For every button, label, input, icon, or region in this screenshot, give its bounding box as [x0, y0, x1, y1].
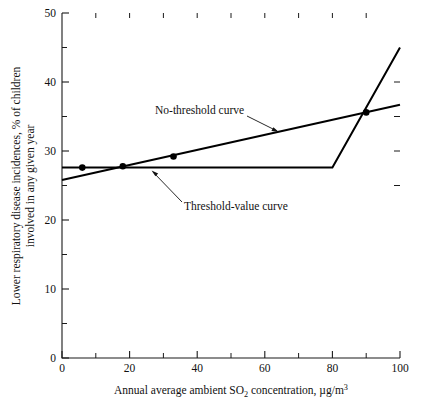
x-axis-title-part2: concentration, µg/m: [248, 384, 344, 397]
x-axis-title: Annual average ambient SO2 concentration…: [114, 383, 348, 399]
y-tick-label-50: 50: [45, 7, 57, 19]
x-tick-label-100: 100: [391, 362, 409, 374]
axis-spines: [62, 13, 400, 358]
svg-text:Annual average ambient SO2 con: Annual average ambient SO2 concentration…: [114, 383, 348, 399]
y-tick-label-20: 20: [45, 214, 57, 226]
data-points: [79, 109, 370, 171]
x-axis-ticks: [62, 351, 400, 358]
x-axis-tick-labels: 0 20 40 60 80 100: [59, 362, 409, 374]
x-tick-label-80: 80: [327, 362, 339, 374]
threshold-value-leader-arrowhead: [152, 171, 159, 177]
annotation-no-threshold: No-threshold curve: [155, 104, 279, 132]
y-tick-label-10: 10: [45, 283, 57, 295]
no-threshold-leader-line: [247, 116, 277, 131]
y-axis-title-line1: Lower respiratory disease incidences, % …: [10, 66, 23, 305]
x-tick-label-40: 40: [191, 362, 203, 374]
y-axis-title: Lower respiratory disease incidences, % …: [10, 66, 37, 305]
right-edge-ticks: [394, 82, 400, 186]
data-point: [170, 153, 177, 160]
threshold-value-annotation-label: Threshold-value curve: [184, 200, 288, 212]
chart-figure: 0 10 20 30 40 50: [0, 0, 421, 413]
y-axis-tick-labels: 0 10 20 30 40 50: [45, 7, 57, 364]
x-tick-label-20: 20: [124, 362, 136, 374]
chart-svg: 0 10 20 30 40 50: [0, 0, 421, 413]
x-axis-title-superscript: 3: [344, 383, 348, 392]
y-axis-ticks: [62, 13, 69, 358]
data-point: [363, 109, 370, 116]
no-threshold-annotation-label: No-threshold curve: [155, 104, 244, 116]
x-tick-label-60: 60: [259, 362, 271, 374]
axis-frame: [62, 13, 400, 358]
no-threshold-curve: [62, 105, 400, 180]
y-tick-label-0: 0: [50, 352, 56, 364]
threshold-value-leader-line: [153, 172, 182, 202]
data-point: [79, 164, 86, 171]
y-tick-label-30: 30: [45, 145, 57, 157]
y-axis-title-line2: involved in any given year: [24, 125, 37, 248]
top-edge-ticks: [96, 13, 366, 18]
data-point: [120, 163, 127, 170]
annotation-threshold-value: Threshold-value curve: [152, 171, 288, 212]
x-tick-label-0: 0: [59, 362, 65, 374]
y-tick-label-40: 40: [45, 76, 57, 88]
x-axis-title-part1: Annual average ambient SO: [114, 384, 244, 397]
no-threshold-leader-arrowhead: [271, 127, 278, 132]
